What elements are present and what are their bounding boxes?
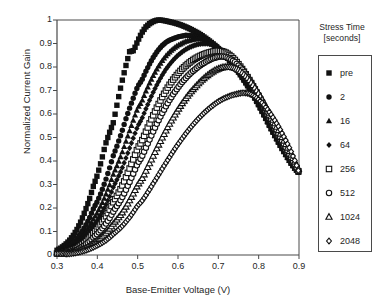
data-point (98, 161, 103, 166)
y-tick-label: 0.4 (24, 156, 52, 165)
x-tick-label: 0.4 (82, 261, 112, 271)
data-point (129, 100, 134, 105)
y-tick-label: 0 (24, 250, 52, 259)
y-tick-label: 0.2 (24, 203, 52, 212)
data-point (105, 135, 110, 140)
legend-item-2048[interactable]: 2048 (319, 229, 373, 253)
data-point (83, 206, 88, 211)
y-tick-label: 0.7 (24, 86, 52, 95)
data-point (123, 116, 128, 121)
y-tick-label: 0.1 (24, 227, 52, 236)
data-point (94, 174, 99, 179)
data-point (103, 140, 108, 145)
data-point (326, 70, 331, 75)
legend-item-label: 1024 (339, 212, 373, 222)
x-tick-label: 0.9 (284, 261, 314, 271)
data-point (109, 159, 114, 164)
open-square-icon (319, 157, 339, 181)
data-point (91, 184, 96, 189)
data-point (85, 201, 90, 206)
data-point (107, 165, 112, 170)
data-point (108, 176, 114, 182)
legend-item-2[interactable]: 2 (319, 85, 373, 109)
data-point (125, 111, 130, 116)
data-point (326, 94, 331, 99)
data-point (116, 138, 121, 143)
data-point (121, 122, 126, 127)
data-point (112, 148, 117, 153)
y-tick-label: 0.5 (24, 133, 52, 142)
legend-item-label: 2048 (339, 236, 373, 246)
data-point (114, 143, 119, 148)
filled-triangle-icon (319, 109, 339, 133)
legend-box: pre2166425651210242048 (318, 55, 372, 252)
data-point (118, 85, 123, 90)
x-axis-title: Base-Emitter Voltage (V) (57, 284, 299, 295)
data-point (125, 133, 131, 139)
data-point (119, 149, 125, 155)
x-tick-label: 0.7 (203, 261, 233, 271)
data-point (132, 91, 137, 96)
legend-item-label: 2 (339, 92, 373, 102)
legend-item-label: 512 (339, 188, 373, 198)
y-tick-label: 0.6 (24, 109, 52, 118)
data-point (132, 112, 138, 118)
data-point (128, 122, 134, 128)
data-point (89, 190, 94, 195)
data-point (105, 171, 110, 176)
data-point (118, 133, 123, 138)
data-point (111, 120, 116, 125)
data-point (107, 130, 112, 135)
y-tick-label: 0.3 (24, 180, 52, 189)
data-point (326, 118, 332, 124)
legend-title-line-1: Stress Time (306, 22, 377, 33)
legend-item-label: 64 (339, 140, 373, 150)
data-point (103, 176, 108, 181)
filled-diamond-icon (319, 133, 339, 157)
data-point (125, 56, 130, 61)
legend-item-1024[interactable]: 1024 (319, 205, 373, 229)
data-point (121, 70, 126, 75)
data-point (109, 125, 114, 130)
data-point (96, 167, 101, 172)
data-point (130, 117, 136, 123)
data-point (326, 142, 331, 148)
legend-title-line-2: [seconds] (306, 33, 377, 44)
x-tick-label: 0.8 (244, 261, 274, 271)
legend-item-label: 16 (339, 116, 373, 126)
data-point (326, 214, 332, 220)
x-tick-label: 0.3 (42, 261, 72, 271)
data-point (127, 105, 132, 110)
data-point (121, 143, 127, 149)
data-point (101, 182, 106, 187)
data-point (117, 154, 123, 160)
data-point (123, 138, 129, 144)
data-point (100, 154, 105, 159)
legend-item-16[interactable]: 16 (319, 109, 373, 133)
data-point (101, 147, 106, 152)
legend-item-512[interactable]: 512 (319, 181, 373, 205)
legend-item-label: pre (339, 68, 373, 78)
legend-item-256[interactable]: 256 (319, 157, 373, 181)
open-diamond-icon (319, 229, 339, 253)
data-point (82, 211, 87, 216)
open-circle-icon (319, 181, 339, 205)
legend-item-pre[interactable]: pre (319, 61, 373, 85)
legend-item-label: 256 (339, 164, 373, 174)
legend-item-64[interactable]: 64 (319, 133, 373, 157)
filled-square-icon (319, 61, 339, 85)
x-tick-label: 0.6 (163, 261, 193, 271)
x-tick-label: 0.5 (123, 261, 153, 271)
data-point (120, 77, 125, 82)
data-point (123, 63, 128, 68)
y-tick-label: 1 (24, 15, 52, 24)
data-point (92, 179, 97, 184)
filled-circle-icon (319, 85, 339, 109)
y-tick-label: 0.8 (24, 62, 52, 71)
data-point (114, 103, 119, 108)
data-point (116, 94, 121, 99)
data-point (120, 128, 125, 133)
data-point (112, 112, 117, 117)
data-point (327, 238, 332, 244)
data-point (126, 128, 132, 134)
